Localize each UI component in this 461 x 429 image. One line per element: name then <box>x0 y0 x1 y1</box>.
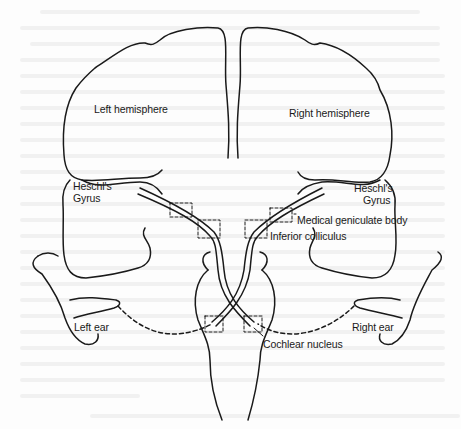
cochlear-nucleus-label: Cochlear nucleus <box>263 339 343 350</box>
left-heschls-label: Heschl's <box>73 181 112 192</box>
right-cochlear-nucleus-box <box>244 316 262 332</box>
right-heschls-label: Heschl's <box>354 183 393 194</box>
right-gyrus-label: Gyrus <box>363 195 391 206</box>
right-hemisphere-outline <box>237 28 392 183</box>
right-hemisphere-label: Right hemisphere <box>289 108 370 119</box>
left-ear-top <box>38 253 58 256</box>
midbrain-left-bulge <box>203 252 210 270</box>
left-ear-label: Left ear <box>74 322 109 333</box>
brainstem-left-outline <box>195 270 222 420</box>
left-gyrus-label: Gyrus <box>73 193 101 204</box>
left-ear-canal <box>70 298 120 318</box>
left-cochlear-nucleus-box <box>205 316 223 332</box>
right-medial-geniculate-box <box>270 208 292 222</box>
left-hemisphere-label: Left hemisphere <box>94 104 168 115</box>
medial-geniculate-body-label: Medical geniculate body <box>297 215 407 226</box>
scanned-page: Left hemisphere Right hemisphere Heschl'… <box>0 0 461 429</box>
inferior-colliculus-label: Inferior colliculus <box>270 231 346 242</box>
right-ear-canal <box>354 298 402 318</box>
midbrain-right-bulge <box>260 252 267 270</box>
right-ear-label: Right ear <box>352 322 394 333</box>
